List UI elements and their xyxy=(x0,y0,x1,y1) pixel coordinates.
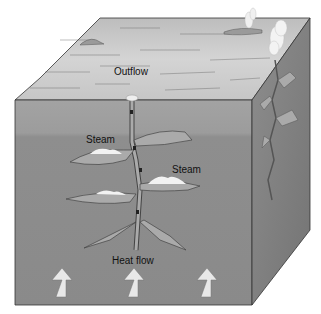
label-heat-flow: Heat flow xyxy=(112,256,154,266)
block-illustration xyxy=(0,0,321,314)
label-steam-right: Steam xyxy=(172,165,201,175)
label-outflow: Outflow xyxy=(114,67,148,77)
outflow-vent xyxy=(126,95,138,101)
label-steam-upper: Steam xyxy=(86,135,115,145)
geothermal-block-diagram: Outflow Steam Steam Heat flow xyxy=(0,0,321,314)
